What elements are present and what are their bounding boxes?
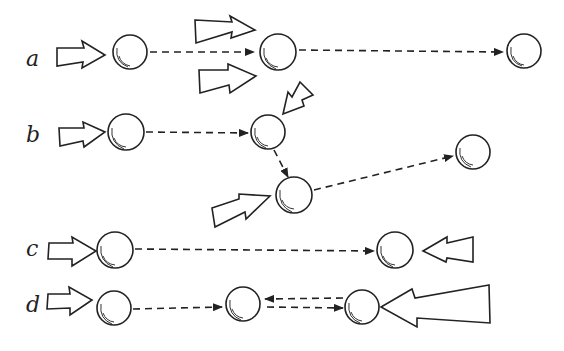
ball-d1 <box>97 291 131 325</box>
row-a <box>57 16 541 93</box>
row-label-c: c <box>26 236 38 261</box>
ball-c1 <box>97 232 133 268</box>
motion-path-d2-forward <box>267 307 343 308</box>
motion-path-b1 <box>146 132 248 133</box>
motion-path-b2 <box>274 150 288 177</box>
row-c <box>48 232 473 268</box>
motion-path-a2 <box>299 50 503 52</box>
ball-b1 <box>108 114 144 150</box>
force-arrow-d1 <box>47 287 92 315</box>
force-arrow-a1 <box>57 41 105 68</box>
force-arrow-b2 <box>283 82 313 114</box>
ball-a3 <box>507 34 541 68</box>
row-d <box>47 285 490 327</box>
motion-path-d1 <box>133 307 222 309</box>
ball-d2 <box>226 287 260 321</box>
forces-diagram: a b c d <box>0 0 564 351</box>
force-arrow-a2 <box>195 16 255 43</box>
ball-c2 <box>377 232 413 268</box>
row-label-a: a <box>26 46 39 71</box>
motion-path-c1 <box>135 249 374 251</box>
force-arrow-c1 <box>48 237 96 266</box>
row-b <box>59 82 490 227</box>
force-arrow-d2 <box>381 285 490 327</box>
force-arrow-b3 <box>212 194 270 227</box>
force-arrow-b1 <box>59 122 105 147</box>
row-label-b: b <box>26 122 40 147</box>
ball-b3 <box>276 177 312 213</box>
ball-a1 <box>113 35 147 69</box>
row-label-d: d <box>26 292 40 317</box>
ball-b2 <box>251 115 285 149</box>
ball-d3 <box>345 290 379 324</box>
motion-path-b3 <box>314 156 453 190</box>
force-arrow-c2 <box>423 237 473 262</box>
ball-a2 <box>260 34 296 70</box>
motion-path-d2-return <box>265 298 343 299</box>
ball-b4 <box>456 135 490 169</box>
force-arrow-a3 <box>199 64 256 93</box>
